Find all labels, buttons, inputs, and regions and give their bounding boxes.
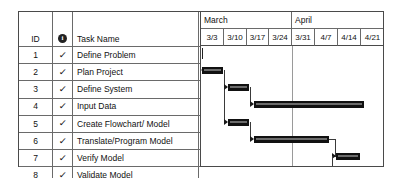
row-task-name: Validate Model — [73, 167, 199, 178]
day-tick: 3/24 — [269, 29, 292, 46]
day-tick: 4/21 — [361, 29, 384, 46]
task-bar-3[interactable] — [228, 84, 249, 91]
dependency-link-2-5 — [224, 70, 225, 122]
table-row[interactable]: 4 ✓ Input Data — [19, 98, 200, 115]
row-id: 2 — [19, 64, 53, 80]
checkmark-icon: ✓ — [58, 119, 67, 128]
gantt-chart: ID i Task Name 1 ✓ Define Problem 2 ✓ Pl… — [18, 11, 384, 167]
row-id: 3 — [19, 81, 53, 97]
row-info-cell: ✓ — [53, 150, 73, 166]
timeline-day-header: 3/3 3/10 3/17 3/24 3/31 4/7 4/14 4/21 — [201, 29, 383, 46]
table-row[interactable]: 6 ✓ Translate/Program Model — [19, 132, 200, 149]
row-id: 4 — [19, 99, 53, 115]
row-info-cell: ✓ — [53, 64, 73, 80]
row-task-name: Define System — [73, 81, 199, 97]
task-bar-7[interactable] — [336, 153, 360, 160]
column-header-info: i — [53, 12, 73, 46]
table-row[interactable]: 3 ✓ Define System — [19, 80, 200, 97]
day-tick: 3/17 — [247, 29, 269, 46]
day-tick: 4/7 — [315, 29, 338, 46]
table-row[interactable]: 5 ✓ Create Flowchart/ Model — [19, 115, 200, 132]
task-bar-4[interactable] — [254, 101, 364, 108]
table-row[interactable]: 7 ✓ Verify Model — [19, 149, 200, 166]
checkmark-icon: ✓ — [58, 137, 67, 146]
checkmark-icon: ✓ — [58, 171, 67, 178]
row-task-name: Input Data — [73, 99, 199, 115]
row-info-cell: ✓ — [53, 47, 73, 63]
checkmark-icon: ✓ — [58, 102, 67, 111]
row-task-name: Define Problem — [73, 47, 199, 63]
checkmark-icon: ✓ — [58, 68, 67, 77]
dependency-link-7-8 — [332, 156, 333, 167]
checkmark-icon: ✓ — [58, 85, 67, 94]
table-header-row: ID i Task Name — [19, 12, 200, 46]
day-tick: 3/10 — [224, 29, 247, 46]
table-row[interactable]: 1 ✓ Define Problem — [19, 46, 200, 63]
row-task-name: Verify Model — [73, 150, 199, 166]
column-header-id: ID — [19, 12, 53, 46]
row-task-name: Translate/Program Model — [73, 133, 199, 149]
column-header-task-name: Task Name — [73, 12, 199, 46]
task-bar-2[interactable] — [202, 67, 223, 74]
row-id: 6 — [19, 133, 53, 149]
task-bar-6[interactable] — [254, 136, 329, 143]
row-id: 1 — [19, 47, 53, 63]
timeline-pane: March April 3/3 3/10 3/17 3/24 3/31 4/7 … — [200, 11, 384, 167]
info-circle-icon: i — [58, 34, 67, 43]
month-label-march: March — [201, 12, 292, 29]
row-id: 7 — [19, 150, 53, 166]
row-id: 8 — [19, 167, 53, 178]
row-info-cell: ✓ — [53, 81, 73, 97]
row-task-name: Create Flowchart/ Model — [73, 116, 199, 132]
task-bar-1[interactable] — [202, 48, 203, 59]
day-tick: 3/31 — [292, 29, 315, 46]
row-info-cell: ✓ — [53, 167, 73, 178]
timeline-month-header: March April — [201, 12, 383, 29]
row-info-cell: ✓ — [53, 116, 73, 132]
row-task-name: Plan Project — [73, 64, 199, 80]
task-table: ID i Task Name 1 ✓ Define Problem 2 ✓ Pl… — [18, 11, 200, 167]
table-row[interactable]: 2 ✓ Plan Project — [19, 63, 200, 80]
day-tick: 3/3 — [201, 29, 224, 46]
month-label-april: April — [292, 12, 384, 29]
day-tick: 4/14 — [338, 29, 361, 46]
checkmark-icon: ✓ — [58, 154, 67, 163]
checkmark-icon: ✓ — [58, 51, 67, 60]
task-bar-5[interactable] — [228, 119, 249, 126]
bars-area — [201, 46, 383, 166]
row-id: 5 — [19, 116, 53, 132]
row-info-cell: ✓ — [53, 133, 73, 149]
row-info-cell: ✓ — [53, 99, 73, 115]
table-row[interactable]: 8 ✓ Validate Model — [19, 166, 200, 178]
